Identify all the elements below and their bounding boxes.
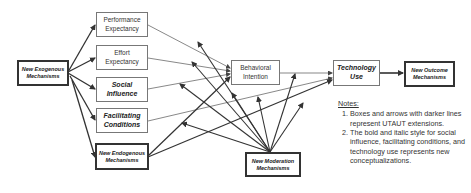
- node-behavioral-intention: Behavioral Intention: [231, 60, 280, 85]
- node-technology-use: Technology Use: [333, 60, 380, 86]
- node-facilitating-conditions: Facilitating Conditions: [96, 108, 148, 133]
- note-item: Boxes and arrows with darker lines repre…: [350, 109, 468, 128]
- node-new-endogenous-mechanisms: New Endogenous Mechanisms: [95, 143, 149, 170]
- notes-panel: Notes: Boxes and arrows with darker line…: [338, 99, 468, 166]
- node-performance-expectancy: Performance Expectancy: [96, 12, 148, 37]
- node-new-moderation-mechanisms: New Moderation Mechanisms: [245, 152, 301, 177]
- note-item: The bold and italic style for social inf…: [350, 128, 468, 165]
- node-new-outcome-mechanisms: New Outcome Mechanisms: [404, 61, 455, 87]
- notes-title: Notes:: [338, 99, 468, 108]
- node-social-influence: Social Influence: [96, 77, 148, 102]
- node-new-exogenous-mechanisms: New Exogenous Mechanisms: [17, 60, 69, 86]
- node-effort-expectancy: Effort Expectancy: [96, 45, 148, 70]
